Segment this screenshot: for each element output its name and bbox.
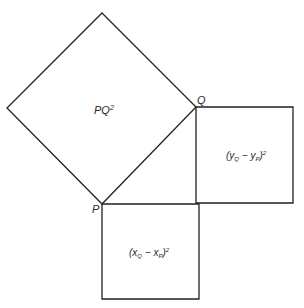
point-p-label: P [92, 203, 100, 215]
vertical-leg-label: (yQ − yP)2 [226, 150, 267, 162]
pythagoras-diagram: PQ2 Q P (yQ − yP)2 (xQ − xP)2 [0, 0, 304, 308]
horizontal-leg-label: (xQ − xP)2 [129, 247, 170, 259]
hypotenuse-square-label: PQ2 [94, 104, 114, 116]
point-q-label: Q [197, 94, 206, 106]
